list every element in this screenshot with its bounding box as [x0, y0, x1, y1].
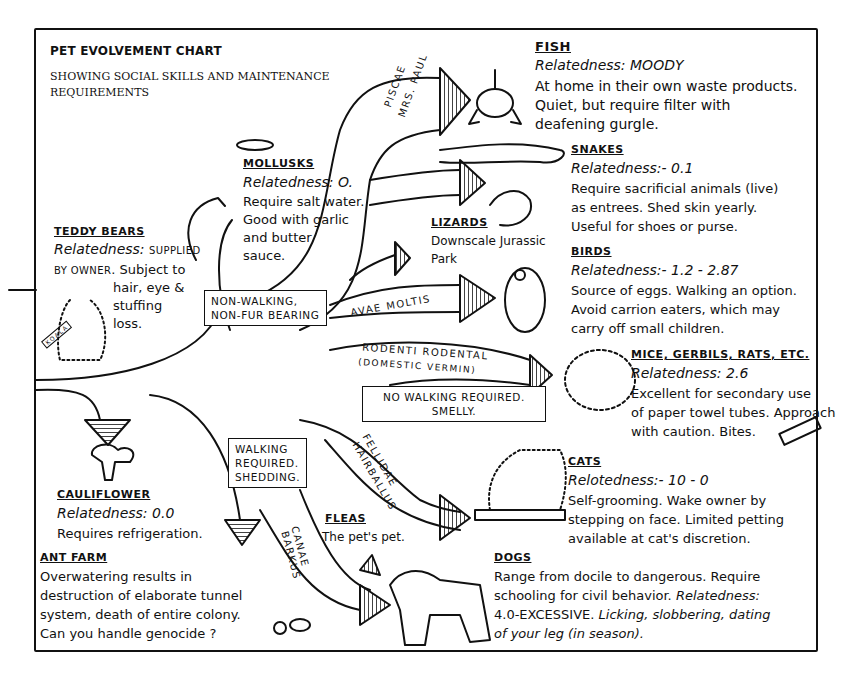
chart-subtitle: SHOWING SOCIAL SKILLS AND MAINTENANCE RE… [50, 69, 350, 101]
cats-desc-2: stepping on face. Limited petting [568, 511, 784, 529]
mice-heading: MICE, GERBILS, RATS, ETC. [631, 349, 809, 362]
snakes-desc-3: Useful for shoes or purse. [571, 218, 738, 236]
cauliflower-heading: CAULIFLOWER [57, 489, 150, 502]
mollusks-relatedness: Relatedness: O. [243, 174, 353, 190]
ant-farm-desc-3: system, death of entire colony. [40, 606, 241, 624]
snakes-relatedness: Relatedness:- 0.1 [571, 160, 693, 176]
dogs-schooling: schooling for civil behavior. [494, 588, 676, 603]
dogs-heading: DOGS [494, 552, 531, 565]
branch-label-line: SHEDDING. [235, 470, 300, 484]
birds-heading: BIRDS [571, 246, 612, 259]
ant-farm-desc-4: Can you handle genocide ? [40, 625, 216, 643]
fish-desc-3: deafening gurgle. [535, 115, 659, 134]
mice-desc-3: with caution. Bites. [631, 423, 756, 441]
ant-farm-desc-2: destruction of elaborate tunnel [40, 587, 242, 605]
teddy-bears-heading: TEDDY BEARS [54, 226, 145, 239]
teddy-by-owner: BY OWNER [54, 265, 111, 276]
cats-desc-1: Self-grooming. Wake owner by [568, 492, 766, 510]
dogs-desc-4: of your leg (in season). [494, 625, 644, 643]
branch-label-no-walking: NO WALKING REQUIRED. SMELLY. [362, 386, 546, 422]
dogs-desc-2: schooling for civil behavior. Relatednes… [494, 587, 760, 605]
teddy-bears-desc-2: hair, eye & [113, 279, 184, 297]
birds-desc-3: carry off small children. [571, 320, 725, 338]
lizards-heading: LIZARDS [431, 217, 488, 230]
branch-label-line: NO WALKING REQUIRED. [369, 390, 539, 404]
mollusks-desc-2: Good with garlic [243, 211, 349, 229]
cats-relatedness: Relotedness:- 10 - 0 [568, 472, 709, 488]
mice-desc-1: Excellent for secondary use [631, 385, 811, 403]
mollusks-desc-1: Require salt water. [243, 193, 364, 211]
dogs-relatedness-value: 4.0-EXCESSIVE. [494, 607, 599, 622]
teddy-subject: . Subject to [111, 262, 185, 277]
cats-heading: CATS [568, 456, 601, 469]
cauliflower-desc: Requires refrigeration. [57, 525, 203, 543]
birds-relatedness: Relatedness:- 1.2 - 2.87 [571, 262, 738, 278]
relatedness-value: SUPPLIED [149, 245, 200, 256]
chart-frame [34, 28, 818, 652]
teddy-bears-desc-1: BY OWNER. Subject to [54, 261, 185, 280]
branch-label-non-walking: NON-WALKING, NON-FUR BEARING [204, 290, 327, 326]
snakes-desc-2: as entrees. Shed skin yearly. [571, 199, 757, 217]
snakes-heading: SNAKES [571, 144, 624, 157]
fish-relatedness: Relatedness: MOODY [535, 57, 684, 73]
branch-label-line: SMELLY. [369, 404, 539, 418]
lizards-desc-2: Park [431, 250, 457, 268]
teddy-bears-relatedness: Relatedness: SUPPLIED [54, 241, 201, 257]
birds-desc-2: Avoid carrion eaters, which may [571, 301, 780, 319]
mice-desc-2: of paper towel tubes. Approach [631, 404, 835, 422]
mollusks-desc-4: sauce. [243, 247, 285, 265]
ant-farm-heading: ANT FARM [40, 552, 107, 565]
teddy-bears-desc-3: stuffing [113, 297, 162, 315]
birds-desc-1: Source of eggs. Walking an option. [571, 282, 797, 300]
branch-label-line: NON-FUR BEARING [211, 308, 320, 322]
lizards-desc-1: Downscale Jurassic [431, 232, 546, 250]
branch-label-line: WALKING [235, 442, 300, 456]
branch-label-line: NON-WALKING, [211, 294, 320, 308]
cauliflower-relatedness: Relatedness: 0.0 [57, 505, 174, 521]
fish-desc-2: Quiet, but require filter with [535, 96, 730, 115]
snakes-desc-1: Require sacrificial animals (live) [571, 180, 778, 198]
fleas-desc: The pet's pet. [322, 528, 405, 546]
dogs-licking: Licking, slobbering, dating [599, 607, 771, 622]
branch-label-line: REQUIRED. [235, 456, 300, 470]
dogs-desc-1: Range from docile to dangerous. Require [494, 568, 760, 586]
ant-farm-desc-1: Overwatering results in [40, 568, 192, 586]
fish-heading: FISH [535, 40, 571, 55]
dogs-desc-3: 4.0-EXCESSIVE. Licking, slobbering, dati… [494, 606, 770, 624]
dogs-relatedness-label: Relatedness: [676, 588, 760, 603]
relatedness-label: Relatedness: [54, 241, 145, 257]
cats-desc-3: available at cat's discretion. [568, 530, 751, 548]
teddy-bears-desc-4: loss. [113, 315, 142, 333]
mice-relatedness: Relatedness: 2.6 [631, 365, 748, 381]
branch-label-walking: WALKING REQUIRED. SHEDDING. [228, 438, 307, 488]
mollusks-desc-3: and butter [243, 229, 312, 247]
mollusks-heading: MOLLUSKS [243, 158, 314, 171]
fish-desc-1: At home in their own waste products. [535, 77, 798, 96]
fleas-heading: FLEAS [325, 513, 366, 526]
chart-title: PET EVOLVEMENT CHART [50, 45, 222, 59]
